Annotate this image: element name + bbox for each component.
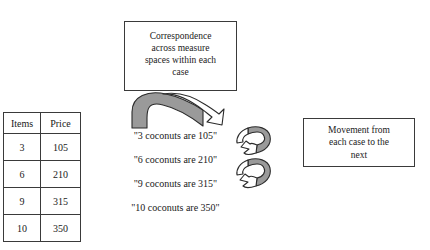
diagram-canvas: Correspondence across measure spaces wit… [0,0,430,250]
table-cell-price: 315 [41,188,81,215]
table-cell-price: 350 [41,215,81,242]
table-row: 3 105 [4,134,81,161]
statement-line: "10 coconuts are 350" [108,202,243,226]
callout-movement-line-3: next [351,149,367,161]
callout-correspondence: Correspondence across measure spaces wit… [124,21,237,91]
table-cell-price: 105 [41,134,81,161]
callout-movement-line-2: each case to the [329,136,389,148]
callout-correspondence-line-2: across measure [152,42,210,54]
table-cell-items: 3 [4,134,41,161]
statement-line: "6 coconuts are 210" [108,154,243,178]
items-price-table: Items Price 3 105 6 210 9 315 10 350 [3,112,81,242]
callout-correspondence-line-1: Correspondence [150,30,212,42]
callout-correspondence-line-3: spaces within each [145,54,216,66]
table-header-price: Price [41,113,81,134]
table-header-items: Items [4,113,41,134]
callout-movement: Movement from each case to the next [303,118,415,167]
table-header-row: Items Price [4,113,81,134]
table-cell-items: 9 [4,188,41,215]
statement-line: "9 coconuts are 315" [108,178,243,202]
callout-movement-line-1: Movement from [328,124,390,136]
table-cell-price: 210 [41,161,81,188]
callout-correspondence-line-4: case [172,66,188,78]
table-row: 9 315 [4,188,81,215]
curved-arch-arrow-right-icon [132,93,224,128]
statement-list: "3 coconuts are 105" "6 coconuts are 210… [108,130,243,226]
table-cell-items: 6 [4,161,41,188]
table-row: 10 350 [4,215,81,242]
table-cell-items: 10 [4,215,41,242]
table-row: 6 210 [4,161,81,188]
statement-line: "3 coconuts are 105" [108,130,243,154]
